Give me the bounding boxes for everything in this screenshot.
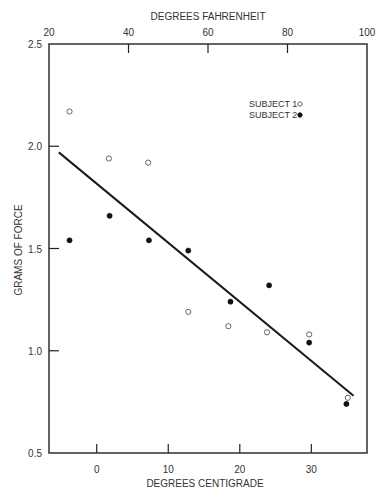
subject-2-point bbox=[267, 283, 272, 288]
subject-2-point bbox=[67, 238, 72, 243]
x-axis-title: DEGREES CENTIGRADE bbox=[146, 478, 264, 489]
subject-2-point bbox=[186, 248, 191, 253]
x-axis-centigrade: 0102030 bbox=[94, 444, 317, 475]
subject-1-point bbox=[106, 156, 111, 161]
x-tick-label: 0 bbox=[94, 464, 100, 475]
subject-1-point bbox=[226, 324, 231, 329]
x-axis-fahrenheit: 20406080100 bbox=[43, 27, 375, 53]
fit-line bbox=[59, 152, 354, 395]
x-tick-label: 20 bbox=[234, 464, 246, 475]
legend-label: SUBJECT 2 bbox=[249, 110, 297, 120]
subject-2-point bbox=[307, 340, 312, 345]
y-tick-label: 1.0 bbox=[28, 346, 42, 357]
x2-axis-title: DEGREES FAHRENHEIT bbox=[150, 11, 265, 22]
legend-filled-circle-icon bbox=[298, 113, 302, 117]
scatter-chart: 0.51.01.52.02.5 0102030 20406080100 SUBJ… bbox=[0, 0, 381, 494]
x2-tick-label: 20 bbox=[43, 27, 55, 38]
subject-1-point bbox=[186, 309, 191, 314]
subject-2-point bbox=[228, 299, 233, 304]
subject-1-point bbox=[146, 160, 151, 165]
plot-border bbox=[49, 44, 367, 453]
regression-line bbox=[59, 152, 354, 395]
legend: SUBJECT 1SUBJECT 2 bbox=[249, 99, 302, 120]
subject-2-point bbox=[146, 238, 151, 243]
x-tick-label: 30 bbox=[306, 464, 318, 475]
subject-1-point bbox=[345, 395, 350, 400]
x2-tick-label: 100 bbox=[359, 27, 376, 38]
subject-2-point bbox=[107, 213, 112, 218]
subject-1-point bbox=[67, 109, 72, 114]
data-points bbox=[67, 109, 350, 407]
x-tick-label: 10 bbox=[163, 464, 175, 475]
y-axis: 0.51.01.52.02.5 bbox=[28, 39, 59, 459]
subject-1-point bbox=[307, 332, 312, 337]
y-tick-label: 0.5 bbox=[28, 448, 42, 459]
y-axis-title: GRAMS OF FORCE bbox=[13, 204, 24, 295]
y-tick-label: 1.5 bbox=[28, 244, 42, 255]
y-tick-label: 2.0 bbox=[28, 141, 42, 152]
y-tick-label: 2.5 bbox=[28, 39, 42, 50]
x2-tick-label: 60 bbox=[202, 27, 214, 38]
subject-1-point bbox=[264, 330, 269, 335]
x2-tick-label: 80 bbox=[282, 27, 294, 38]
legend-open-circle-icon bbox=[298, 102, 302, 106]
legend-label: SUBJECT 1 bbox=[249, 99, 297, 109]
subject-2-point bbox=[344, 401, 349, 406]
x2-tick-label: 40 bbox=[123, 27, 135, 38]
plot-frame bbox=[49, 44, 367, 453]
